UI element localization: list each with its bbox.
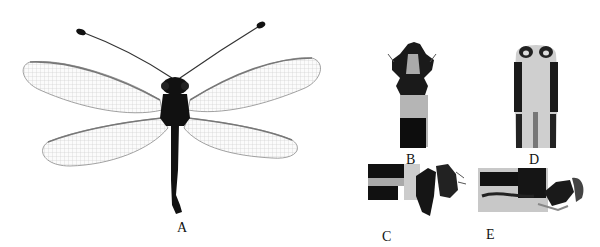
panel-d-genitalia-ventral: D [508,42,564,148]
panel-label-a: A [177,221,187,235]
panel-label-c: C [382,230,391,244]
panel-b-genitalia-dorsal: B [378,40,448,148]
panel-label-e: E [486,228,495,242]
specimen-figure-plate: A B D [0,0,600,247]
panel-c-genitalia-lateral: C [368,162,468,222]
panel-e-genitalia-lateral-alt: E [478,162,590,220]
genitalia-lateral-image [368,162,468,222]
genitalia-dorsal-image [378,40,448,148]
owlfly-specimen-image [0,0,340,247]
genitalia-lateral-alt-image [478,162,590,220]
genitalia-ventral-image [508,42,564,148]
panel-a-habitus: A [0,0,340,247]
